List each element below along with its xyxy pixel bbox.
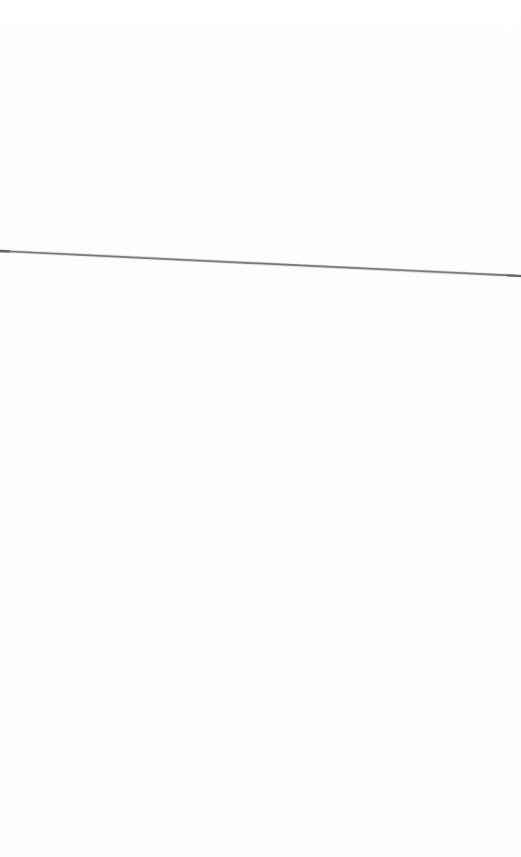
- rule-layer: [0, 0, 521, 857]
- rule-svg: [0, 0, 521, 857]
- scanned-page: [0, 0, 521, 857]
- paper-grain-texture: [0, 0, 521, 857]
- horizontal-rule: [0, 251, 521, 276]
- horizontal-rule-halo: [0, 251, 521, 276]
- horizontal-rule-right-cap: [508, 275, 521, 276]
- horizontal-rule-left-cap: [0, 251, 9, 252]
